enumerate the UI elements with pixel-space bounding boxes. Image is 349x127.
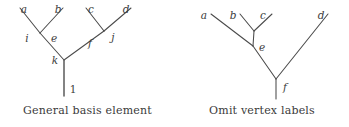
right-label-a: a: [201, 9, 207, 21]
caption-omit-vertex-labels: Omit vertex labels: [175, 104, 349, 117]
right-label-f: f: [282, 81, 289, 93]
right-edge-d: [276, 14, 328, 79]
caption-general-basis-element: General basis element: [0, 104, 175, 117]
right-label-c: c: [260, 9, 266, 21]
right-label-b: b: [230, 9, 237, 21]
left-label-e: e: [51, 32, 57, 44]
left-edge-f: [64, 31, 104, 60]
right-tree-group: a b c d e f: [201, 9, 328, 99]
figure-root: a b c d i e j f k 1: [0, 0, 349, 127]
right-label-e: e: [259, 41, 265, 53]
left-label-b: b: [55, 3, 62, 15]
left-label-d: d: [123, 3, 130, 15]
right-label-d: d: [318, 9, 325, 21]
left-label-j: j: [109, 31, 115, 43]
left-label-a: a: [21, 3, 27, 15]
left-tree-group: a b c d i e j f k 1: [20, 3, 131, 96]
right-edge-e: [253, 31, 254, 46]
left-label-i: i: [25, 32, 28, 44]
right-edge-b: [240, 14, 254, 31]
left-label-c: c: [88, 3, 94, 15]
left-label-root: 1: [70, 83, 77, 95]
left-label-k: k: [52, 54, 58, 66]
